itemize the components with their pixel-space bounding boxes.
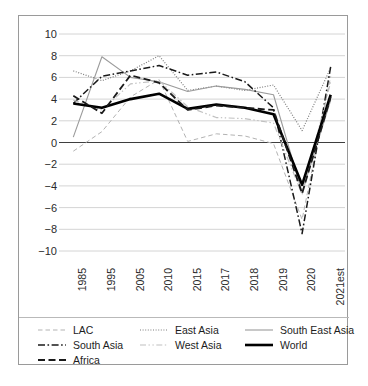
legend-item-world[interactable]: World (244, 338, 349, 352)
y-tick-label: 0 (31, 137, 57, 148)
y-tick-label: 8 (31, 50, 57, 61)
legend-item-south-east-asia[interactable]: South East Asia (244, 323, 349, 337)
legend-label: East Asia (175, 325, 219, 336)
legend-label: Africa (73, 355, 100, 366)
series-line-world (73, 94, 330, 185)
legend-label: West Asia (175, 340, 222, 351)
x-tick-label: 2015 (192, 268, 203, 291)
legend-label: LAC (73, 325, 93, 336)
legend-item-west-asia[interactable]: West Asia (139, 338, 244, 352)
x-tick-label: 2017 (220, 268, 231, 291)
legend-swatch-icon (244, 325, 274, 335)
y-tick-label: −8 (31, 224, 57, 235)
x-tick-label: 2010 (163, 268, 174, 291)
y-tick-label: 2 (31, 115, 57, 126)
x-tick-label: 2018 (249, 268, 260, 291)
legend-item-lac[interactable]: LAC (19, 323, 139, 337)
x-tick-label: 2005 (135, 268, 146, 291)
legend-row: Africa (19, 353, 349, 367)
legend-swatch-icon (37, 325, 67, 335)
y-tick-label: −10 (31, 246, 57, 257)
y-axis-tick-labels: 1086420−2−4−6−8−10 (19, 16, 57, 266)
y-tick-label: 4 (31, 94, 57, 105)
legend-item-east-asia[interactable]: East Asia (139, 323, 244, 337)
legend-swatch-icon (139, 340, 169, 350)
y-tick-label: −6 (31, 202, 57, 213)
legend-swatch-icon (139, 325, 169, 335)
chart-legend: LACEast AsiaSouth East AsiaSouth AsiaWes… (19, 317, 349, 364)
series-line-africa (73, 75, 330, 193)
legend-row: LACEast AsiaSouth East Asia (19, 323, 349, 337)
legend-item-africa[interactable]: Africa (19, 353, 139, 367)
legend-swatch-icon (37, 340, 67, 350)
x-tick-label: 2021est (335, 268, 346, 305)
legend-label: South Asia (73, 340, 123, 351)
y-tick-label: 6 (31, 72, 57, 83)
legend-label: South East Asia (280, 325, 354, 336)
y-tick-label: −2 (31, 159, 57, 170)
series-line-lac (73, 76, 330, 219)
x-axis-tick-labels: 1985199520052010201520172018201920202021… (19, 266, 349, 318)
x-tick-label: 1995 (106, 268, 117, 291)
legend-label: World (280, 340, 307, 351)
y-tick-label: −4 (31, 180, 57, 191)
series-line-east-asia (73, 56, 330, 131)
legend-swatch-icon (37, 355, 67, 365)
series-line-south-asia (73, 65, 330, 233)
x-tick-label: 2020 (306, 268, 317, 291)
legend-item-south-asia[interactable]: South Asia (19, 338, 139, 352)
x-tick-label: 1985 (77, 268, 88, 291)
data-series-group (73, 56, 330, 234)
plot-area: 1086420−2−4−6−8−10 (19, 16, 349, 266)
growth-rate-line-chart: 1086420−2−4−6−8−10 198519952005201020152… (18, 15, 348, 365)
legend-row: South AsiaWest AsiaWorld (19, 338, 349, 352)
legend-swatch-icon (244, 340, 274, 350)
y-tick-label: 10 (31, 29, 57, 40)
x-tick-label: 2019 (278, 268, 289, 291)
plot-canvas (19, 16, 349, 266)
